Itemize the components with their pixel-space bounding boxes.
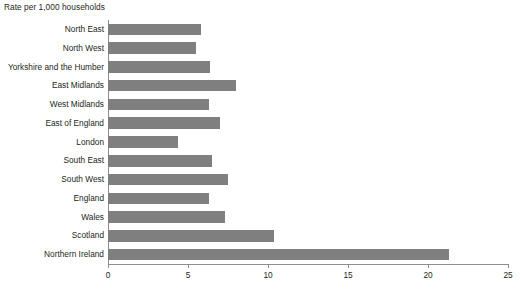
plot-area: [108, 20, 508, 264]
bar: [108, 80, 236, 92]
x-axis-tick-label: 15: [343, 270, 352, 280]
bar: [108, 230, 274, 242]
bar: [108, 174, 228, 186]
bar-row: [108, 245, 508, 264]
x-axis-tick-label: 10: [263, 270, 272, 280]
category-label: North East: [0, 20, 104, 39]
bar-row: [108, 114, 508, 133]
bar: [108, 24, 201, 36]
category-label: South East: [0, 151, 104, 170]
chart-title: Rate per 1,000 households: [4, 2, 105, 12]
x-axis-tick: [428, 264, 429, 268]
bar-row: [108, 226, 508, 245]
bar: [108, 42, 196, 54]
category-label: London: [0, 133, 104, 152]
bar-row: [108, 133, 508, 152]
bar-row: [108, 20, 508, 39]
x-axis-tick-label: 5: [186, 270, 191, 280]
bar: [108, 155, 212, 167]
x-axis-tick: [508, 264, 509, 268]
bar: [108, 136, 178, 148]
bar-row: [108, 95, 508, 114]
bar: [108, 211, 225, 223]
category-label: South West: [0, 170, 104, 189]
bar: [108, 193, 209, 205]
category-label: North West: [0, 39, 104, 58]
bar-row: [108, 170, 508, 189]
category-label: Scotland: [0, 226, 104, 245]
bar: [108, 249, 449, 261]
bar-row: [108, 76, 508, 95]
bar: [108, 117, 220, 129]
category-label: East Midlands: [0, 76, 104, 95]
category-label: Northern Ireland: [0, 245, 104, 264]
category-label: West Midlands: [0, 95, 104, 114]
bar-row: [108, 208, 508, 227]
x-axis-tick: [348, 264, 349, 268]
bar-chart: Rate per 1,000 households 0510152025 Nor…: [0, 0, 520, 289]
bar-row: [108, 39, 508, 58]
category-label: East of England: [0, 114, 104, 133]
x-axis-tick-label: 0: [106, 270, 111, 280]
x-axis-tick: [188, 264, 189, 268]
x-axis-tick: [268, 264, 269, 268]
category-label: Yorkshire and the Humber: [0, 58, 104, 77]
bar-row: [108, 58, 508, 77]
bar-row: [108, 151, 508, 170]
bar-row: [108, 189, 508, 208]
x-axis-tick-label: 25: [503, 270, 512, 280]
x-axis-tick-label: 20: [423, 270, 432, 280]
bar: [108, 99, 209, 111]
x-axis-tick: [108, 264, 109, 268]
bar: [108, 61, 210, 73]
category-label: England: [0, 189, 104, 208]
category-label: Wales: [0, 208, 104, 227]
